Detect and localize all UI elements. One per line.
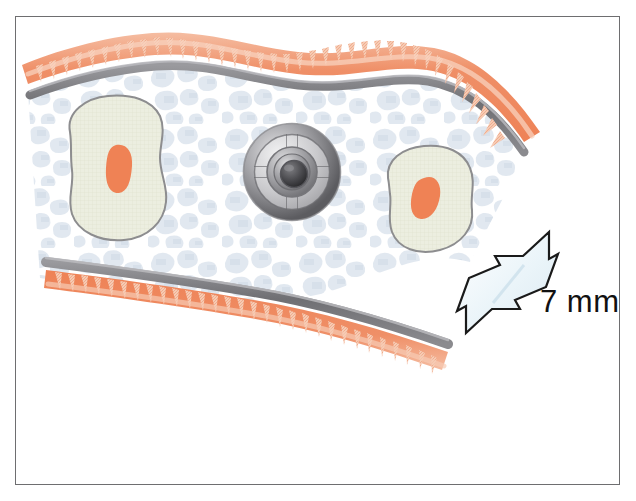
bone-island-right: [388, 146, 473, 252]
bone-island-left: [69, 96, 166, 241]
figure-root: 7 mm: [0, 0, 636, 501]
cross-section-illustration: [0, 0, 636, 501]
scale-bar-label: 7 mm: [540, 286, 620, 317]
metal-implant-disc[interactable]: [244, 124, 341, 221]
